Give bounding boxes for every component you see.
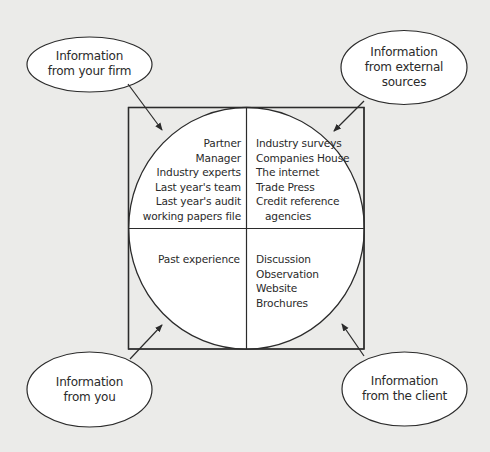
source-client-line-1: Information [342, 374, 467, 389]
list-item: agencies [256, 209, 366, 224]
list-item: Discussion [256, 252, 356, 267]
list-item: Observation [256, 267, 356, 282]
source-external-line-1: Information [341, 45, 467, 60]
list-item: Website [256, 281, 356, 296]
list-item: Trade Press [256, 180, 366, 195]
source-you-line-1: Information [27, 375, 152, 390]
source-client-line-2: from the client [342, 389, 467, 404]
quadrant-top-left-list: Partner Manager Industry experts Last ye… [140, 136, 241, 223]
list-item: Companies House [256, 151, 366, 166]
diagram-canvas: Information from your firm Information f… [0, 0, 490, 452]
source-firm-line-1: Information [27, 49, 152, 64]
list-item: Industry experts [140, 165, 241, 180]
list-item: Last year's team [140, 180, 241, 195]
quadrant-bottom-left-list: Past experience [150, 252, 240, 267]
source-external-label: Information from external sources [341, 45, 467, 90]
list-item: Manager [140, 151, 241, 166]
list-item: Partner [140, 136, 241, 151]
source-client-label: Information from the client [342, 374, 467, 404]
list-item: Last year's audit [140, 194, 241, 209]
list-item: Brochures [256, 296, 356, 311]
list-item: Credit reference [256, 194, 366, 209]
list-item: Industry surveys [256, 136, 366, 151]
source-you-label: Information from you [27, 375, 152, 405]
list-item: Past experience [150, 252, 240, 267]
list-item: The internet [256, 165, 366, 180]
quadrant-bottom-right-list: Discussion Observation Website Brochures [256, 252, 356, 310]
source-firm-label: Information from your firm [27, 49, 152, 79]
quadrant-top-right-list: Industry surveys Companies House The int… [256, 136, 366, 223]
source-firm-line-2: from your firm [27, 64, 152, 79]
list-item: working papers file [140, 209, 241, 224]
source-external-line-2: from external [341, 60, 467, 75]
source-external-line-3: sources [341, 75, 467, 90]
source-you-line-2: from you [27, 390, 152, 405]
